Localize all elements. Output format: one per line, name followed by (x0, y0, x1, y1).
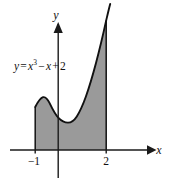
y-axis-arrow-icon (54, 22, 63, 33)
equation-equals: = (19, 60, 28, 72)
x-axis-label: x (155, 143, 162, 157)
equation-constant: 2 (60, 60, 66, 72)
cubic-function-plot: x y −1 2 (0, 0, 169, 182)
shaded-area-region (35, 20, 106, 150)
equation-label: y=x3−x+2 (14, 60, 66, 72)
y-axis-label: y (52, 8, 59, 22)
equation-minus: − (37, 60, 46, 72)
x-tick-label-neg1: −1 (28, 155, 40, 167)
x-tick-label-2: 2 (103, 155, 109, 167)
figure-container: x y −1 2 y=x3−x+2 (0, 0, 169, 182)
equation-plus: + (51, 60, 60, 72)
x-axis-arrow-icon (147, 145, 157, 155)
